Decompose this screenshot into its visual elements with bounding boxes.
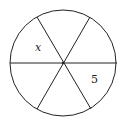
sector-label-5: 5 bbox=[91, 73, 98, 86]
center-point bbox=[62, 62, 64, 64]
sector-diagram: x 5 bbox=[0, 0, 122, 120]
sector-label-x: x bbox=[35, 41, 42, 54]
